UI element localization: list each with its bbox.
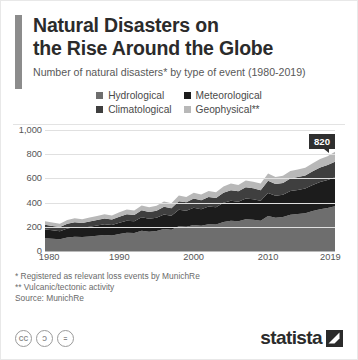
source-line: Source: MunichRe <box>15 293 343 304</box>
x-axis-labels: 19801990200020102019 <box>45 252 335 266</box>
y-tick-label: 400 <box>26 198 42 208</box>
legend-item-geophysical: Geophysical** <box>184 104 262 115</box>
legend-divider <box>13 124 345 125</box>
statista-logo: statista <box>260 327 343 349</box>
chart-area: 02004006008001,000 19801990200020102019 … <box>1 130 357 263</box>
y-tick-label: 1,000 <box>19 125 42 135</box>
x-tick-label: 2000 <box>183 252 204 262</box>
data-callout-2019: 820 <box>309 134 335 150</box>
chart-legend: Hydrological Meteorological Climatologic… <box>1 90 357 115</box>
footnotes: * Registered as relevant loss events by … <box>15 271 343 305</box>
cc-nd-equals-icon: = <box>57 330 74 347</box>
page-title: Natural Disasters on the Rise Around the… <box>33 14 343 59</box>
legend-swatch-climatological <box>96 106 103 113</box>
y-tick-label: 200 <box>26 222 42 232</box>
legend-label-geophysical: Geophysical** <box>196 104 260 115</box>
statista-mark-icon <box>326 330 343 347</box>
statista-wordmark: statista <box>260 327 322 349</box>
gridline <box>45 154 335 155</box>
title-accent-bar <box>15 15 22 89</box>
y-axis-labels: 02004006008001,000 <box>1 130 42 251</box>
cc-icon: CC <box>15 330 32 347</box>
page-subtitle: Number of natural disasters* by type of … <box>33 66 343 79</box>
gridline <box>45 203 335 204</box>
legend-swatch-meteorological <box>184 92 191 99</box>
footer: CC Ɔ = statista <box>1 326 357 350</box>
x-tick-label: 1980 <box>39 252 60 262</box>
title-line-2: the Rise Around the Globe <box>33 37 343 60</box>
cc-by-person-icon: Ɔ <box>36 330 53 347</box>
creative-commons-icons: CC Ɔ = <box>15 330 74 347</box>
legend-item-climatological: Climatological <box>96 104 171 115</box>
y-tick-label: 600 <box>26 173 42 183</box>
data-callout-value: 820 <box>314 136 330 147</box>
y-tick-label: 800 <box>26 149 42 159</box>
legend-item-meteorological: Meteorological <box>184 90 262 101</box>
legend-label-climatological: Climatological <box>108 104 171 115</box>
gridline <box>45 227 335 228</box>
title-line-1: Natural Disasters on <box>33 14 343 37</box>
legend-item-hydrological: Hydrological <box>96 90 171 101</box>
footnote-1: * Registered as relevant loss events by … <box>15 271 343 282</box>
legend-swatch-geophysical <box>184 106 191 113</box>
x-tick-label: 2010 <box>258 252 279 262</box>
x-tick-label: 1990 <box>109 252 130 262</box>
gridline <box>45 130 335 131</box>
legend-label-hydrological: Hydrological <box>108 90 164 101</box>
x-tick-label: 2019 <box>320 252 341 262</box>
gridline <box>45 178 335 179</box>
infographic-card: Natural Disasters on the Rise Around the… <box>0 0 358 360</box>
plot-region <box>45 130 335 251</box>
legend-label-meteorological: Meteorological <box>196 90 262 101</box>
footnote-2: ** Vulcanic/tectonic activity <box>15 282 343 293</box>
legend-swatch-hydrological <box>96 92 103 99</box>
stacked-area-chart <box>45 130 335 251</box>
header: Natural Disasters on the Rise Around the… <box>1 1 357 79</box>
